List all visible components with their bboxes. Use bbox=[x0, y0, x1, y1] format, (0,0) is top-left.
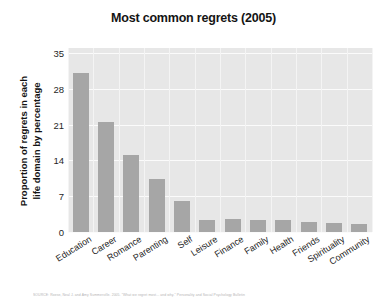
gridline-vertical bbox=[347, 48, 348, 232]
bar-family[interactable] bbox=[250, 220, 266, 232]
y-tick-label: 0 bbox=[40, 227, 64, 238]
gridline-vertical bbox=[119, 48, 120, 232]
bar-spirituality[interactable] bbox=[326, 223, 342, 232]
bar-self[interactable] bbox=[174, 201, 190, 232]
bar-friends[interactable] bbox=[301, 222, 317, 232]
gridline-vertical bbox=[372, 48, 373, 232]
y-axis-tick-labels: 0714212835 bbox=[38, 48, 64, 232]
gridline-horizontal bbox=[68, 232, 372, 233]
gridline-vertical bbox=[245, 48, 246, 232]
gridline-vertical bbox=[93, 48, 94, 232]
bar-health[interactable] bbox=[275, 220, 291, 232]
bar-leisure[interactable] bbox=[199, 220, 215, 232]
y-tick-label: 7 bbox=[40, 191, 64, 202]
bar-finance[interactable] bbox=[225, 219, 241, 232]
bar-career[interactable] bbox=[98, 122, 114, 232]
bar-community[interactable] bbox=[351, 224, 367, 232]
gridline-vertical bbox=[271, 48, 272, 232]
bar-romance[interactable] bbox=[123, 155, 139, 232]
bar-parenting[interactable] bbox=[149, 179, 165, 232]
plot-area bbox=[68, 48, 372, 232]
source-note: SOURCE: Roese, Neal J. and Amy Summervil… bbox=[33, 293, 383, 297]
gridline-vertical bbox=[296, 48, 297, 232]
gridline-vertical bbox=[144, 48, 145, 232]
gridline-vertical bbox=[195, 48, 196, 232]
chart-title: Most common regrets (2005) bbox=[0, 11, 387, 25]
gridline-vertical bbox=[321, 48, 322, 232]
gridline-vertical bbox=[68, 48, 69, 232]
y-tick-label: 14 bbox=[40, 155, 64, 166]
bar-education[interactable] bbox=[73, 73, 89, 232]
y-axis-title: Proportion of regrets in each life domai… bbox=[4, 48, 34, 234]
y-tick-label: 35 bbox=[40, 48, 64, 59]
y-tick-label: 21 bbox=[40, 119, 64, 130]
gridline-vertical bbox=[220, 48, 221, 232]
gridline-vertical bbox=[169, 48, 170, 232]
chart-figure: Most common regrets (2005) Proportion of… bbox=[0, 0, 387, 304]
y-tick-label: 28 bbox=[40, 83, 64, 94]
x-axis-tick-labels: EducationCareerRomanceParentingSelfLeisu… bbox=[68, 234, 387, 296]
